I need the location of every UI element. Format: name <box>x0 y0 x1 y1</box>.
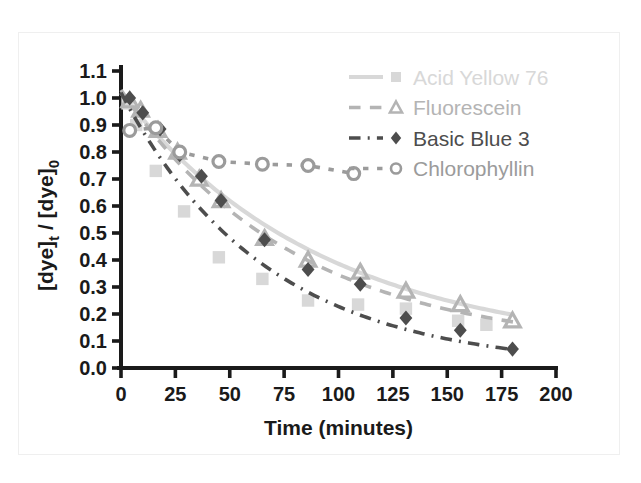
y-axis-tick-label: 0.2 <box>79 303 107 325</box>
data-point-square <box>352 298 364 310</box>
clipped-top-caption <box>18 0 618 3</box>
figure-frame: 0.00.10.20.30.40.50.60.70.80.91.01.10255… <box>18 32 620 455</box>
y-axis-tick-label: 0.3 <box>79 276 107 298</box>
legend-entry-hitbox[interactable] <box>345 124 595 152</box>
x-axis-tick-label: 25 <box>164 383 186 405</box>
y-axis-tick-label: 0.1 <box>79 330 107 352</box>
legend-entry-hitbox[interactable] <box>345 63 595 91</box>
data-point-circle <box>256 158 268 170</box>
y-axis-title: [dye]t / [dye]0 <box>34 160 62 291</box>
legend-entry-hitbox[interactable] <box>345 94 595 122</box>
y-axis-tick-label: 1.1 <box>79 60 107 82</box>
x-axis-tick-label: 0 <box>115 383 126 405</box>
x-axis-tick-label: 50 <box>219 383 241 405</box>
y-axis-tick-label: 0.9 <box>79 114 107 136</box>
x-axis-tick-label: 125 <box>376 383 409 405</box>
x-axis-tick-label: 150 <box>431 383 464 405</box>
data-point-circle <box>124 125 136 137</box>
y-axis-title-text: [dye]t / [dye]0 <box>34 160 62 291</box>
legend: Acid Yellow 76FluoresceinBasic Blue 3Chl… <box>345 63 595 183</box>
data-point-diamond <box>506 342 519 357</box>
legend-entry[interactable]: Acid Yellow 76 <box>345 63 595 91</box>
legend-entry[interactable]: Fluorescein <box>345 94 595 122</box>
data-point-square <box>480 319 492 331</box>
data-point-circle <box>302 160 314 172</box>
x-axis-title: Time (minutes) <box>264 416 413 439</box>
data-point-square <box>452 315 464 327</box>
data-point-circle <box>174 146 186 158</box>
data-point-square <box>178 205 190 217</box>
x-axis-tick-label: 175 <box>485 383 518 405</box>
y-axis-tick-label: 0.0 <box>79 357 107 379</box>
figure-root: 0.00.10.20.30.40.50.60.70.80.91.01.10255… <box>0 0 641 483</box>
y-axis-tick-label: 0.8 <box>79 141 107 163</box>
legend-entry[interactable]: Chlorophyllin <box>345 155 595 183</box>
y-axis-tick-label: 1.0 <box>79 87 107 109</box>
x-axis-tick-label: 75 <box>273 383 295 405</box>
y-axis-tick-label: 0.7 <box>79 168 107 190</box>
y-axis-tick-label: 0.4 <box>79 249 108 271</box>
y-axis-tick-label: 0.6 <box>79 195 107 217</box>
legend-entry[interactable]: Basic Blue 3 <box>345 124 595 152</box>
y-axis-tick-label: 0.5 <box>79 222 107 244</box>
x-axis-tick-label: 100 <box>322 383 355 405</box>
data-point-circle <box>213 156 225 168</box>
plot-canvas: 0.00.10.20.30.40.50.60.70.80.91.01.10255… <box>19 33 619 454</box>
data-point-square <box>150 165 162 177</box>
legend-entry-hitbox[interactable] <box>345 155 595 183</box>
data-point-circle <box>150 122 162 134</box>
data-point-square <box>213 251 225 263</box>
data-point-square <box>256 273 268 285</box>
x-axis-tick-label: 200 <box>539 383 572 405</box>
